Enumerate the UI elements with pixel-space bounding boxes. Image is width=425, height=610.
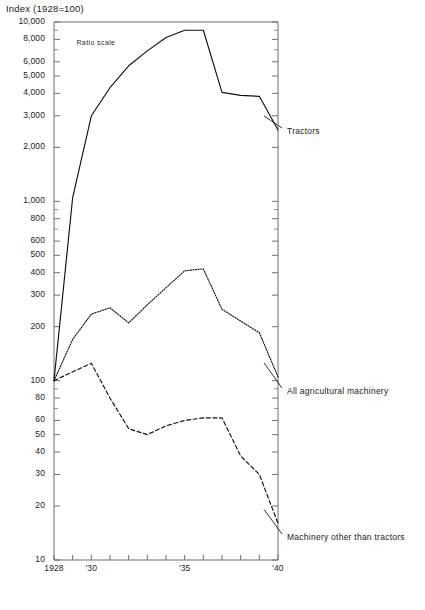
y-axis-tick-label: 500 bbox=[0, 250, 45, 259]
x-axis-tick-label: '30 bbox=[71, 564, 111, 573]
y-axis-tick-label: 20 bbox=[0, 501, 45, 510]
y-axis-tick-label: 5,000 bbox=[0, 71, 45, 80]
y-axis-tick-label: 600 bbox=[0, 236, 45, 245]
series-line-machinery-other-than-tractors bbox=[54, 363, 278, 523]
series-line-tractors bbox=[54, 30, 278, 380]
y-axis-tick-label: 100 bbox=[0, 376, 45, 385]
series-label-all-agricultural-machinery: All agricultural machinery bbox=[287, 386, 388, 396]
y-axis-tick-label: 300 bbox=[0, 290, 45, 299]
y-axis-tick-label: 40 bbox=[0, 447, 45, 456]
x-axis-tick-label: '40 bbox=[258, 564, 298, 573]
y-axis-tick-label: 800 bbox=[0, 214, 45, 223]
y-axis-tick-label: 3,000 bbox=[0, 111, 45, 120]
series-line-all-agricultural-machinery bbox=[54, 269, 278, 381]
series-leader-line bbox=[264, 509, 282, 534]
series-leader-line bbox=[264, 363, 282, 388]
x-axis-tick-label: 1928 bbox=[34, 564, 74, 573]
y-axis-tick-label: 30 bbox=[0, 469, 45, 478]
y-axis-tick-label: 4,000 bbox=[0, 88, 45, 97]
chart-plot-area bbox=[0, 0, 425, 610]
y-axis-tick-label: 10 bbox=[0, 555, 45, 564]
y-axis-tick-label: 2,000 bbox=[0, 142, 45, 151]
y-axis-tick-label: 80 bbox=[0, 393, 45, 402]
y-axis-tick-label: 6,000 bbox=[0, 57, 45, 66]
bottom-caption-cropped bbox=[0, 600, 425, 610]
y-axis-tick-label: 8,000 bbox=[0, 34, 45, 43]
y-axis-tick-label: 400 bbox=[0, 268, 45, 277]
y-axis-tick-label: 1,000 bbox=[0, 196, 45, 205]
y-axis-tick-label: 10,000 bbox=[0, 17, 45, 26]
y-axis-tick-label: 50 bbox=[0, 430, 45, 439]
chart-figure: Index (1928=100) Ratio scale 10203040506… bbox=[0, 0, 425, 610]
y-axis-tick-label: 60 bbox=[0, 415, 45, 424]
series-label-tractors: Tractors bbox=[287, 126, 320, 136]
series-label-machinery-other-than-tractors: Machinery other than tractors bbox=[287, 532, 405, 542]
y-axis-tick-label: 200 bbox=[0, 322, 45, 331]
x-axis-tick-label: '35 bbox=[165, 564, 205, 573]
series-leader-line bbox=[264, 116, 282, 128]
plot-frame bbox=[54, 22, 278, 560]
